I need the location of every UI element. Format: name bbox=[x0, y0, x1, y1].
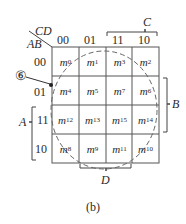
row-header-10: 10 bbox=[35, 143, 47, 155]
bracket-b bbox=[163, 78, 170, 132]
bracket-label-d: D bbox=[101, 174, 110, 186]
cell-m7: m7 bbox=[106, 76, 133, 105]
cell-m13: m13 bbox=[79, 105, 106, 134]
bracket-label-a: A bbox=[19, 116, 26, 128]
cell-m1: m1 bbox=[79, 47, 106, 76]
cell-m6: m6 bbox=[132, 76, 159, 105]
cell-m11: m11 bbox=[106, 134, 133, 163]
col-header-00: 00 bbox=[57, 34, 69, 46]
figure-caption: (b) bbox=[86, 200, 100, 215]
cell-m8: m8 bbox=[52, 134, 79, 163]
callout-number: ⑥ bbox=[15, 70, 27, 82]
cell-m3: m3 bbox=[106, 47, 133, 76]
cell-m14: m14 bbox=[132, 105, 159, 134]
row-header-01: 01 bbox=[34, 86, 46, 98]
cell-m9: m9 bbox=[79, 134, 106, 163]
row-header-00: 00 bbox=[34, 56, 46, 68]
callout-leader bbox=[26, 77, 50, 84]
cell-m10: m10 bbox=[132, 134, 159, 163]
col-header-10: 10 bbox=[138, 34, 150, 46]
col-variable-label: CD bbox=[35, 25, 52, 37]
row-variable-label: AB bbox=[27, 38, 42, 50]
cell-m4: m4 bbox=[52, 76, 79, 105]
row-header-11: 11 bbox=[37, 114, 49, 126]
cell-m0: m0 bbox=[52, 47, 79, 76]
cell-m2: m2 bbox=[132, 47, 159, 76]
cell-m5: m5 bbox=[79, 76, 106, 105]
bracket-label-c: C bbox=[143, 16, 151, 28]
bracket-label-b: B bbox=[172, 98, 179, 110]
col-header-11: 11 bbox=[112, 34, 124, 46]
cell-m15: m15 bbox=[106, 105, 133, 134]
cell-m12: m12 bbox=[52, 105, 79, 134]
col-header-01: 01 bbox=[84, 34, 96, 46]
